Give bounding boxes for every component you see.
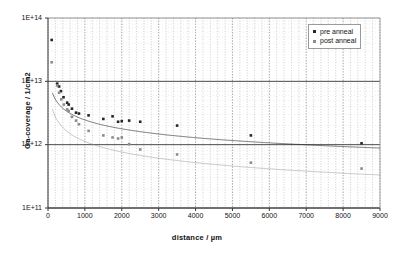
data-point xyxy=(250,161,253,164)
data-point xyxy=(71,116,74,119)
legend-label: pre anneal xyxy=(320,27,353,36)
data-point xyxy=(117,120,120,123)
y-axis-title: Ga-coverage / 1/cm2 xyxy=(23,36,32,186)
x-tick-label: 0 xyxy=(28,212,68,219)
data-point xyxy=(102,118,105,121)
x-tick-label: 4000 xyxy=(176,212,216,219)
data-point xyxy=(176,124,179,127)
data-point xyxy=(360,142,363,145)
y-tick-label: 1E+14 xyxy=(8,14,42,21)
data-point xyxy=(78,123,81,126)
data-point xyxy=(117,137,120,140)
data-point xyxy=(50,39,53,42)
legend-label: post anneal xyxy=(320,36,356,45)
data-point xyxy=(176,153,179,156)
data-point xyxy=(128,119,131,122)
data-point xyxy=(139,120,142,123)
data-point xyxy=(63,103,66,106)
data-point xyxy=(56,84,59,87)
data-point xyxy=(58,91,61,94)
legend-marker-icon xyxy=(313,40,316,43)
data-point xyxy=(60,98,63,101)
legend-entry: pre anneal xyxy=(312,27,356,36)
data-point xyxy=(87,130,90,133)
x-tick-label: 7000 xyxy=(286,212,326,219)
data-point xyxy=(71,107,74,110)
data-point xyxy=(75,111,78,114)
chart-legend: pre annealpost anneal xyxy=(308,24,361,49)
x-tick-label: 6000 xyxy=(249,212,289,219)
data-point xyxy=(102,134,105,137)
data-point xyxy=(67,103,70,106)
data-point xyxy=(67,110,70,113)
data-point xyxy=(139,148,142,151)
x-tick-label: 1000 xyxy=(65,212,105,219)
data-point xyxy=(120,120,123,123)
data-point xyxy=(50,61,53,64)
x-tick-label: 2000 xyxy=(102,212,142,219)
x-tick-label: 3000 xyxy=(139,212,179,219)
data-point xyxy=(87,114,90,117)
data-point xyxy=(75,119,78,122)
data-point xyxy=(111,136,114,139)
x-axis-title: distance / µm xyxy=(0,233,394,242)
data-point xyxy=(250,134,253,137)
x-tick-label: 8000 xyxy=(323,212,363,219)
y-tick-label: 1E+11 xyxy=(8,204,42,211)
data-point xyxy=(120,136,123,139)
chart-figure: Ga-coverage / 1/cm2 distance / µm 1E+111… xyxy=(0,0,394,253)
legend-marker-icon xyxy=(313,30,316,33)
data-point xyxy=(360,167,363,170)
y-tick-label: 1E+13 xyxy=(8,77,42,84)
data-point xyxy=(111,115,114,118)
data-point xyxy=(128,143,131,146)
data-point xyxy=(78,112,81,115)
x-tick-label: 9000 xyxy=(360,212,394,219)
legend-entry: post anneal xyxy=(312,36,356,45)
y-tick-label: 1E+12 xyxy=(8,140,42,147)
x-tick-label: 5000 xyxy=(212,212,252,219)
